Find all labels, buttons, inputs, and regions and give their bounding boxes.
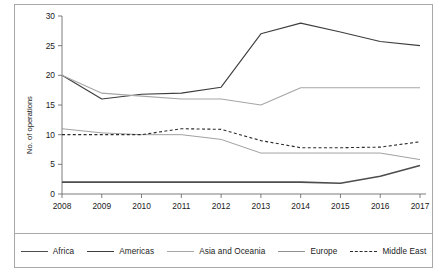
legend-swatch-africa	[21, 251, 48, 252]
series-line-africa	[62, 166, 420, 184]
y-axis-title: No. of operations	[25, 96, 34, 154]
legend-label: Asia and Oceania	[199, 247, 265, 256]
x-tick-label: 2011	[172, 201, 190, 211]
y-tick-label: 10	[46, 130, 56, 140]
chart-legend: AfricaAmericasAsia and OceaniaEuropeMidd…	[15, 235, 432, 268]
x-axis: 2008200920102011201220132014201520162017	[53, 194, 430, 211]
series-line-europe	[62, 129, 420, 160]
legend-label: Middle East	[382, 247, 426, 256]
legend-swatch-middle-east	[350, 251, 377, 252]
x-tick-label: 2016	[371, 201, 390, 211]
legend-item-africa[interactable]: Africa	[21, 247, 75, 256]
series-line-middle-east	[62, 129, 420, 148]
legend-swatch-asia-and-oceania	[167, 251, 194, 252]
y-tick-label: 25	[46, 41, 56, 51]
plot-panel: 051015202530 200820092010201120122013201…	[15, 5, 432, 234]
x-tick-label: 2013	[252, 201, 271, 211]
legend-item-americas[interactable]: Americas	[87, 247, 154, 256]
figure-container: 051015202530 200820092010201120122013201…	[14, 4, 433, 268]
x-tick-label: 2012	[212, 201, 231, 211]
legend-label: Europe	[310, 247, 337, 256]
y-tick-label: 20	[46, 70, 56, 80]
legend-label: Americas	[119, 247, 154, 256]
x-tick-label: 2015	[331, 201, 350, 211]
legend-label: Africa	[53, 247, 75, 256]
legend-item-europe[interactable]: Europe	[278, 247, 337, 256]
x-tick-label: 2008	[53, 201, 72, 211]
line-chart: 051015202530 200820092010201120122013201…	[15, 5, 432, 234]
x-tick-label: 2014	[291, 201, 310, 211]
legend-swatch-europe	[278, 251, 305, 252]
x-tick-label: 2017	[411, 201, 430, 211]
y-tick-label: 5	[50, 159, 55, 169]
x-tick-label: 2009	[92, 201, 111, 211]
y-tick-label: 15	[46, 100, 56, 110]
y-axis: 051015202530	[46, 11, 62, 199]
series-line-asia-and-oceania	[62, 75, 420, 105]
legend-item-middle-east[interactable]: Middle East	[350, 247, 426, 256]
y-tick-label: 30	[46, 11, 56, 21]
x-tick-label: 2010	[132, 201, 151, 211]
series-lines	[62, 23, 420, 183]
y-tick-label: 0	[50, 189, 55, 199]
legend-swatch-americas	[87, 251, 114, 252]
legend-item-asia-and-oceania[interactable]: Asia and Oceania	[167, 247, 265, 256]
